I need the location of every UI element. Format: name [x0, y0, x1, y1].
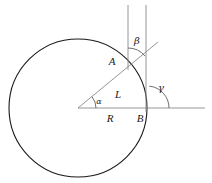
label-length-l: L — [114, 88, 121, 100]
label-point-a: A — [108, 55, 116, 67]
geometry-figure: A B L R α β γ — [0, 0, 212, 183]
label-angle-gamma: γ — [158, 82, 164, 93]
label-radius-r: R — [106, 112, 114, 124]
label-angle-alpha: α — [96, 97, 102, 106]
label-point-b: B — [137, 112, 144, 124]
label-angle-beta: β — [133, 35, 140, 46]
geometry-svg: A B L R α β γ — [0, 0, 212, 183]
